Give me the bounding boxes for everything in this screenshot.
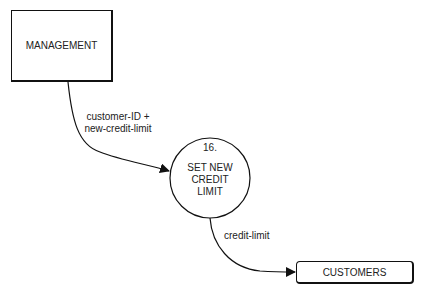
process-number: 16.: [180, 142, 240, 154]
customers-label: CUSTOMERS: [323, 267, 387, 278]
flow-label-process-to-customers: credit-limit: [224, 230, 270, 242]
flow-label-line: customer-ID +: [82, 111, 154, 123]
process-label-line: LIMIT: [180, 186, 240, 198]
management-entity: MANAGEMENT: [11, 10, 113, 82]
process-label-line: SET NEW: [180, 162, 240, 174]
flow-label-line: new-credit-limit: [82, 123, 154, 135]
management-label: MANAGEMENT: [26, 40, 98, 51]
customers-entity: CUSTOMERS: [296, 261, 414, 284]
flow-label-management-to-process: customer-ID + new-credit-limit: [82, 111, 154, 135]
process-label-line: CREDIT: [180, 174, 240, 186]
flow-arrow-process-to-customers: [210, 218, 295, 272]
flow-label-line: credit-limit: [224, 230, 270, 241]
process-16: 16. SET NEW CREDIT LIMIT: [180, 142, 240, 198]
